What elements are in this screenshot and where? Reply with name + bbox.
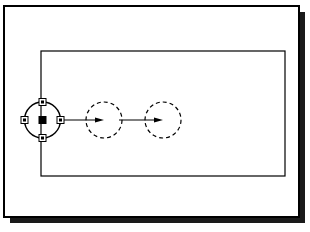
grip-left-core xyxy=(23,119,26,122)
cad-drawing-canvas xyxy=(0,0,310,232)
grip-right-core xyxy=(59,119,62,122)
grip-top-core xyxy=(41,101,44,104)
grip-center[interactable] xyxy=(39,117,46,124)
grip-bottom-core xyxy=(41,137,44,140)
figure-root: CAD drawing: circle copied along horizon… xyxy=(0,0,310,232)
drawing-sheet-border xyxy=(4,6,299,217)
